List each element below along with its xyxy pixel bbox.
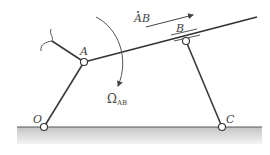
break-mark-icon xyxy=(41,41,52,51)
velocity-arrow-icon xyxy=(146,15,193,27)
velocity-label: AB xyxy=(134,13,150,24)
velocity-label-rest: B xyxy=(142,12,150,25)
pin-A xyxy=(81,59,88,66)
pin-C xyxy=(219,124,226,131)
break-mark-icon xyxy=(51,29,53,41)
link-CB xyxy=(186,41,222,127)
label-A: A xyxy=(80,46,88,57)
angular-velocity-label: ΩAB xyxy=(107,93,127,109)
link-OA xyxy=(44,62,84,127)
pin-B xyxy=(183,38,190,45)
link-AB-bar xyxy=(84,17,257,62)
omega-subscript: AB xyxy=(117,99,127,107)
ground-hatch xyxy=(17,127,262,144)
label-C: C xyxy=(226,114,234,125)
angular-velocity-arc-icon xyxy=(96,17,123,86)
velocity-label-dotted: A xyxy=(134,13,142,24)
omega-symbol: Ω xyxy=(107,92,117,106)
label-O: O xyxy=(33,114,42,125)
label-B: B xyxy=(176,23,184,34)
